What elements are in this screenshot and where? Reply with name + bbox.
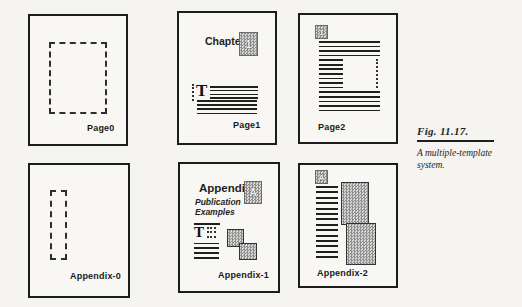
text-line	[316, 224, 338, 226]
text-line	[197, 113, 257, 115]
text-line	[319, 55, 380, 57]
page1-dropcap-row: T	[192, 84, 258, 101]
appendix2-label: Appendix-2	[317, 268, 368, 278]
appendix1-dropcap-T: T	[194, 226, 204, 240]
page2-dotted-figure-placeholder	[343, 59, 378, 88]
template-panel-page0: Page0	[28, 14, 128, 146]
template-panel-appendix1: Appendix A Publication Examples T	[178, 162, 280, 293]
text-line	[197, 108, 257, 110]
text-line	[319, 64, 343, 66]
figure-caption-text-line2: system.	[417, 160, 509, 172]
appendix1-dropcap-row: T	[194, 226, 220, 240]
page1-chapter-number: 1	[246, 39, 252, 50]
text-line	[319, 68, 343, 70]
text-line	[319, 50, 380, 52]
text-line	[194, 252, 219, 254]
page0-dashed-placeholder-frame	[49, 42, 107, 114]
page1-text-lines-full	[197, 100, 257, 117]
text-line	[316, 191, 338, 193]
text-line	[316, 256, 338, 258]
template-panel-appendix2: A Appendix-2	[298, 163, 398, 288]
appendix2-image-placeholder-1	[341, 182, 369, 225]
appendix2-text-lines	[316, 186, 338, 261]
text-line	[194, 257, 219, 259]
text-line	[319, 78, 343, 80]
appendix0-label: Appendix-0	[70, 271, 121, 281]
appendix1-image-placeholder-2	[239, 243, 257, 260]
text-line	[210, 90, 258, 92]
appendix1-letter-badge: A	[244, 181, 262, 204]
text-line	[319, 87, 343, 89]
appendix0-dashed-placeholder-frame	[50, 190, 67, 260]
text-line	[194, 247, 219, 249]
text-line	[316, 245, 338, 247]
text-line	[316, 240, 338, 242]
page1-chapter-number-badge: 1	[239, 32, 258, 56]
text-line	[197, 104, 257, 106]
appendix1-subtitle-line1: Publication	[195, 197, 241, 207]
appendix1-letter: A	[249, 187, 256, 198]
text-line	[319, 46, 380, 48]
page1-text-lines-short	[210, 84, 258, 101]
page2-label: Page2	[318, 122, 346, 132]
page2-number-badge: 1	[315, 25, 328, 39]
dotted-text-line	[207, 227, 216, 229]
page1-dropcap-T: T	[192, 84, 207, 101]
text-line	[210, 94, 258, 96]
text-line	[319, 110, 380, 112]
text-line	[319, 105, 380, 107]
page2-text-block	[319, 41, 380, 114]
text-line	[316, 235, 338, 237]
dotted-text-line	[207, 231, 216, 233]
appendix1-subtitle-line2: Examples	[195, 207, 241, 217]
appendix1-subtitle: Publication Examples	[195, 197, 241, 217]
text-line	[316, 197, 338, 199]
text-line	[319, 82, 343, 84]
text-line	[319, 73, 343, 75]
page1-label: Page1	[233, 120, 261, 130]
text-line	[319, 96, 380, 98]
text-line	[319, 59, 343, 61]
appendix2-image-placeholder-2	[346, 223, 376, 265]
text-line	[316, 229, 338, 231]
appendix2-letter: A	[319, 173, 325, 182]
text-line	[210, 86, 258, 88]
page2-wrapped-text-row	[319, 59, 380, 91]
text-line	[316, 186, 338, 188]
appendix1-text-block: T	[194, 223, 220, 262]
text-line	[210, 97, 258, 99]
page2-text-lines-short	[319, 59, 343, 91]
page2-number: 1	[319, 28, 323, 37]
text-line	[319, 101, 380, 103]
appendix1-text-lines	[194, 243, 219, 259]
text-line	[319, 91, 380, 93]
page0-label: Page0	[87, 123, 115, 133]
text-line	[194, 243, 219, 245]
appendix1-dotted-lines	[207, 226, 216, 240]
appendix1-label: Appendix-1	[218, 270, 269, 280]
figure-caption: Fig. 11.17. A multiple-template system.	[417, 125, 509, 171]
template-panel-page2: 1	[298, 13, 398, 144]
appendix2-letter-badge: A	[315, 170, 328, 184]
dotted-text-line	[207, 236, 216, 238]
text-line	[316, 213, 338, 215]
text-line	[316, 208, 338, 210]
text-line	[197, 100, 257, 102]
text-line	[316, 202, 338, 204]
figure-caption-text-line1: A multiple-template	[417, 148, 509, 160]
template-panel-appendix0: Appendix-0	[28, 163, 130, 298]
figure-page: Page0 Chapter 1 T Page1 1	[0, 0, 522, 307]
template-panel-page1: Chapter 1 T Page1	[177, 11, 277, 145]
text-line	[316, 251, 338, 253]
text-line	[316, 218, 338, 220]
text-line	[319, 41, 380, 43]
figure-caption-title: Fig. 11.17.	[417, 125, 494, 142]
